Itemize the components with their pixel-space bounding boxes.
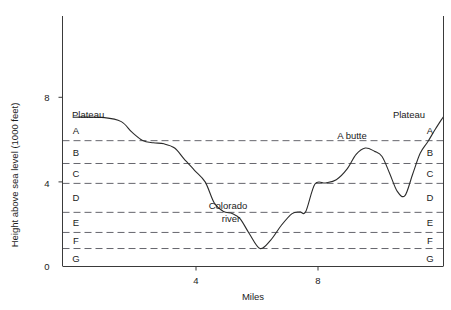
strata-label-left-D: D: [73, 192, 80, 203]
annotation-colorado-river-line1: Colorado: [209, 200, 248, 211]
strata-label-right-A: A: [427, 125, 434, 136]
strata-label-right-G: G: [426, 253, 433, 264]
strata-label-right-F: F: [427, 235, 433, 246]
y-tick-label-0: 0: [44, 261, 49, 272]
strata-label-left-G: G: [72, 253, 79, 264]
strata-label-right-C: C: [427, 168, 434, 179]
annotation-plateau-left: Plateau: [72, 109, 104, 120]
canyon-cross-section-chart: 8 4 0 4 8 Miles Height above sea level (…: [0, 0, 451, 310]
strata-label-left-A: A: [73, 125, 80, 136]
chart-background: [0, 0, 451, 310]
strata-label-left-F: F: [73, 235, 79, 246]
x-tick-label-8: 8: [315, 275, 320, 286]
strata-label-left-B: B: [73, 147, 79, 158]
y-tick-label-8: 8: [44, 92, 49, 103]
strata-label-right-E: E: [427, 217, 433, 228]
strata-label-left-C: C: [73, 168, 80, 179]
strata-label-right-B: B: [427, 147, 433, 158]
annotation-a-butte: A butte: [337, 130, 367, 141]
x-tick-label-4: 4: [193, 275, 198, 286]
chart-figure: 8 4 0 4 8 Miles Height above sea level (…: [0, 0, 451, 310]
y-tick-label-4: 4: [44, 178, 49, 189]
annotation-colorado-river-line2: river: [222, 213, 240, 224]
annotation-plateau-right: Plateau: [393, 109, 425, 120]
strata-label-right-D: D: [427, 192, 434, 203]
strata-label-left-E: E: [73, 217, 79, 228]
x-axis-title: Miles: [242, 291, 264, 302]
y-axis-title: Height above sea level (1000 feet): [9, 103, 20, 248]
